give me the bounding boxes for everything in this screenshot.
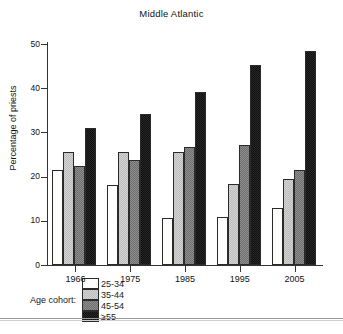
- legend-label-35-44: 35-44: [101, 290, 124, 300]
- bar-1966-≥55: [85, 128, 96, 265]
- y-axis-tick-label: 10: [2, 216, 40, 225]
- y-axis-tick: [41, 221, 48, 222]
- y-axis-tick-label: 30: [2, 128, 40, 137]
- x-axis-tick-label: 1966: [45, 274, 105, 284]
- y-axis-tick: [41, 177, 48, 178]
- y-axis-tick-label: 20: [2, 172, 40, 181]
- bar-2005-45-54: [294, 170, 305, 265]
- y-axis-tick: [41, 265, 48, 266]
- x-axis-tick-label: 1995: [210, 274, 270, 284]
- page-rule: [0, 318, 343, 319]
- bar-1975-45-54: [129, 160, 140, 265]
- legend-title: Age cohort:: [30, 295, 76, 305]
- bar-2005-≥55: [305, 51, 316, 265]
- chart-legend: Age cohort: 25-3435-4445-54≥55: [30, 292, 330, 308]
- x-axis-tick: [130, 266, 131, 272]
- x-axis-tick: [295, 266, 296, 272]
- x-axis-tick: [75, 266, 76, 272]
- bar-2005-25-34: [272, 208, 283, 265]
- bar-1966-45-54: [74, 166, 85, 265]
- plot-area: [48, 44, 322, 265]
- legend-label-45-54: 45-54: [101, 301, 124, 311]
- bar-1975-≥55: [140, 114, 151, 265]
- x-axis-tick: [185, 266, 186, 272]
- x-axis-tick-label: 1985: [155, 274, 215, 284]
- y-axis-tick: [41, 44, 48, 45]
- bar-1985-45-54: [184, 147, 195, 265]
- bar-1995-35-44: [228, 184, 239, 265]
- chart-title: Middle Atlantic: [0, 8, 343, 19]
- legend-item-35-44: 35-44: [82, 289, 124, 300]
- legend-items: 25-3435-4445-54≥55: [82, 278, 137, 322]
- bar-1985-≥55: [195, 92, 206, 265]
- bar-1995-45-54: [239, 145, 250, 265]
- y-axis-tick-label: 0: [2, 261, 40, 270]
- x-axis-tick-label: 2005: [265, 274, 325, 284]
- bar-2005-35-44: [283, 179, 294, 265]
- bar-1995-25-34: [217, 217, 228, 265]
- page-rule-shadow: [0, 320, 343, 321]
- bar-1966-25-34: [52, 170, 63, 265]
- y-axis-tick: [41, 88, 48, 89]
- x-axis-tick: [240, 266, 241, 272]
- y-axis-tick-labels: 01020304050: [0, 0, 40, 334]
- bar-1975-35-44: [118, 152, 129, 265]
- legend-swatch-35-44: [82, 289, 99, 300]
- bar-1975-25-34: [107, 185, 118, 265]
- bar-1966-35-44: [63, 152, 74, 265]
- legend-swatch-45-54: [82, 300, 99, 311]
- legend-item-45-54: 45-54: [82, 300, 124, 311]
- y-axis-tick: [41, 132, 48, 133]
- chart-figure: Middle Atlantic Percentage of priests 01…: [0, 0, 343, 334]
- y-axis-tick-label: 50: [2, 40, 40, 49]
- bar-1985-25-34: [162, 218, 173, 265]
- x-axis-tick-label: 1975: [100, 274, 160, 284]
- bar-1985-35-44: [173, 152, 184, 265]
- y-axis-tick-label: 40: [2, 84, 40, 93]
- bar-1995-≥55: [250, 65, 261, 265]
